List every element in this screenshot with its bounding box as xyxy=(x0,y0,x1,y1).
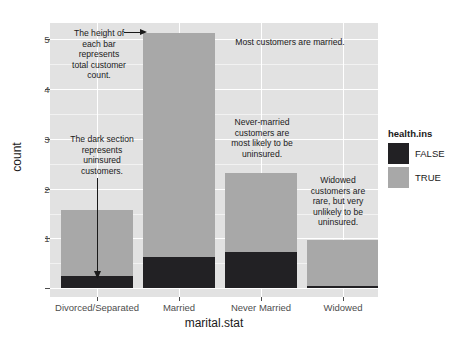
annotation-dark-section: The dark section represents uninsured cu… xyxy=(54,134,150,176)
legend-item-false[interactable]: FALSE xyxy=(388,143,453,164)
annotation-arrow-height-head xyxy=(140,28,149,37)
bar-widowed xyxy=(307,240,378,288)
legend: health.ins FALSE TRUE xyxy=(388,128,453,191)
annotation-arrow-dark-shaft xyxy=(97,178,98,274)
legend-item-true[interactable]: TRUE xyxy=(388,167,453,188)
plot-panel: The height of each bar represents total … xyxy=(50,23,378,297)
x-tick-mark-married xyxy=(179,297,180,301)
legend-swatch-true xyxy=(388,167,409,188)
y-axis-label: count xyxy=(10,112,24,202)
bar-never-married xyxy=(225,173,297,288)
legend-label-true: TRUE xyxy=(415,172,441,183)
annotation-bar-height: The height of each bar represents total … xyxy=(56,28,142,81)
bar-segment-false-widowed xyxy=(307,286,378,288)
bar-segment-false-never xyxy=(225,252,297,288)
bar-segment-true-married xyxy=(143,33,215,288)
bar-segment-false-married xyxy=(143,257,215,288)
x-axis-label: marital.stat xyxy=(0,316,428,330)
x-tick-mark-never xyxy=(261,297,262,301)
x-tick-mark-divorced xyxy=(97,297,98,301)
x-tick-mark-widowed xyxy=(343,297,344,301)
legend-label-false: FALSE xyxy=(415,148,445,159)
chart-root: 500 400 300 200 100 0 count xyxy=(0,0,453,340)
gridline-y-0 xyxy=(50,288,378,289)
annotation-most-married: Most customers are married. xyxy=(210,37,370,48)
x-tick-label-widowed: Widowed xyxy=(293,302,393,313)
bar-married xyxy=(143,33,215,288)
legend-title: health.ins xyxy=(388,128,453,139)
legend-swatch-false xyxy=(388,143,409,164)
bar-segment-true-widowed xyxy=(307,240,378,288)
annotation-never-married: Never-married customers are most likely … xyxy=(210,117,314,159)
annotation-widowed: Widowed customers are rare, but very unl… xyxy=(299,175,377,228)
annotation-arrow-dark-head xyxy=(93,271,102,281)
